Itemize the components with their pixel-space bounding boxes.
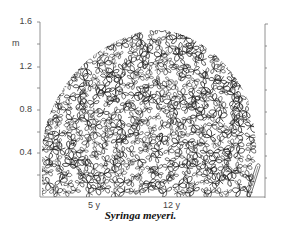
y-axis-unit: m: [12, 38, 20, 48]
y-tick-0-8: 0.8: [2, 104, 32, 114]
y-tick-0-4: 0.4: [2, 147, 32, 157]
shrub-illustration: [0, 0, 281, 234]
y-axis-right: [265, 24, 268, 198]
figure-caption: Syringa meyeri.: [0, 209, 281, 221]
y-tick-1-6: 1.6: [2, 16, 32, 26]
shrub-foliage: [31, 19, 261, 200]
y-tick-1-2: 1.2: [2, 61, 32, 71]
y-axis-left: [37, 22, 40, 197]
